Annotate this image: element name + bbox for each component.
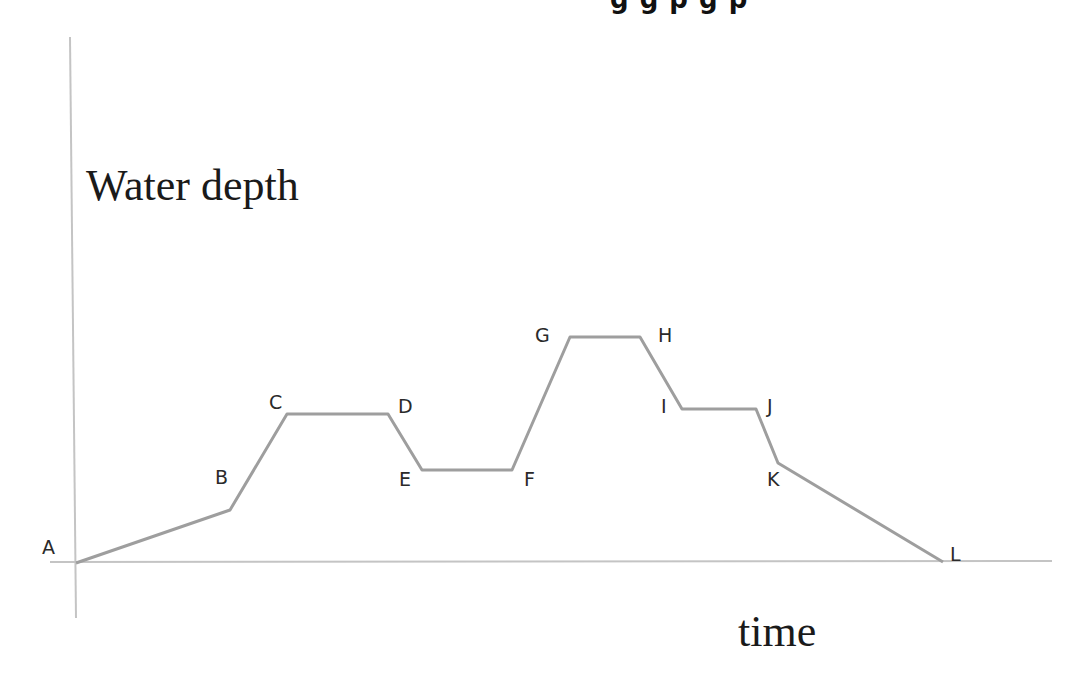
point-label-d: D	[398, 397, 413, 416]
x-axis	[50, 561, 1052, 562]
point-label-f: F	[524, 470, 535, 489]
point-label-c: C	[269, 393, 282, 412]
point-label-i: I	[661, 397, 667, 416]
x-axis-label: time	[738, 610, 816, 654]
point-label-b: B	[215, 468, 228, 487]
y-axis	[70, 37, 76, 618]
depth-profile-line	[76, 337, 943, 563]
point-label-a: A	[42, 538, 55, 557]
water-depth-diagram: g g p g p Water depth time ABCDEFGHIJKL	[0, 0, 1084, 682]
point-label-e: E	[399, 470, 411, 489]
point-label-h: H	[658, 326, 672, 345]
point-label-g: G	[535, 326, 550, 345]
point-label-j: J	[767, 397, 773, 416]
y-axis-label: Water depth	[86, 164, 299, 208]
point-label-l: L	[950, 545, 961, 564]
point-label-k: K	[767, 470, 779, 489]
